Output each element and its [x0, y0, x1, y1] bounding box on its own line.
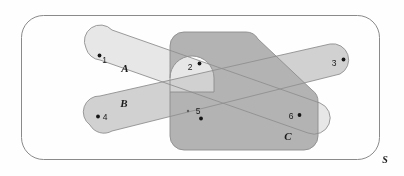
point-dot-faint	[187, 110, 189, 112]
point-dot	[98, 54, 102, 58]
point-dot	[342, 58, 346, 62]
point-dot	[96, 115, 100, 119]
venn-diagram-canvas: A B C 1 2 3 4 5 6 S	[0, 0, 404, 176]
point-dot	[298, 113, 302, 117]
point-label: 3	[332, 58, 337, 68]
venn-diagram-svg: A B C 1 2 3 4 5 6 S	[0, 0, 404, 176]
point-label: 4	[103, 112, 108, 122]
universal-set-label: S	[382, 154, 388, 165]
set-label-b: B	[119, 97, 127, 109]
point-label: 5	[196, 106, 201, 116]
point-label: 2	[188, 62, 193, 72]
point-dot	[199, 117, 203, 121]
point-label: 1	[102, 55, 107, 65]
set-label-a: A	[120, 62, 128, 74]
point-label: 6	[289, 111, 294, 121]
set-label-c: C	[284, 130, 292, 142]
point-dot	[198, 62, 202, 66]
